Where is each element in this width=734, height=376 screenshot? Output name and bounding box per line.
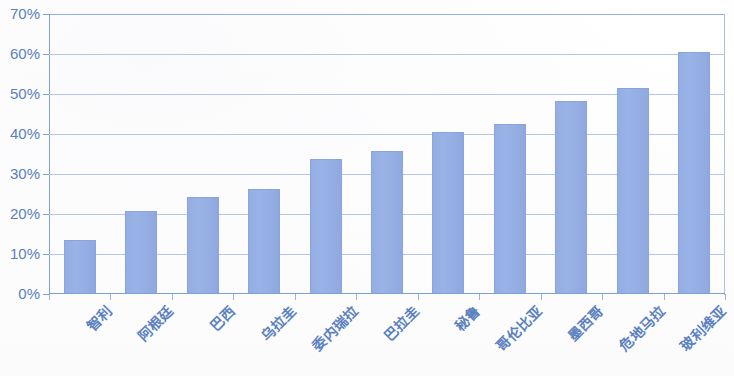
- y-axis-tick-label: 30%: [0, 166, 40, 181]
- bar: [64, 240, 96, 294]
- y-axis-tick-label: 0%: [0, 286, 40, 301]
- y-axis-tick-label: 60%: [0, 46, 40, 61]
- bar: [125, 211, 157, 294]
- bar: [248, 189, 280, 294]
- x-axis-labels: 智利阿根廷巴西乌拉圭委内瑞拉巴拉圭秘鲁哥伦比亚墨西哥危地马拉玻利维亚: [49, 296, 725, 376]
- bar: [310, 159, 342, 294]
- y-axis-tick-label: 10%: [0, 246, 40, 261]
- y-axis-tick-label: 70%: [0, 6, 40, 21]
- y-axis-tick-label: 40%: [0, 126, 40, 141]
- bar: [678, 52, 710, 294]
- bar: [432, 132, 464, 294]
- x-axis-tick: [725, 294, 726, 300]
- bar-chart: 0%10%20%30%40%50%60%70% 智利阿根廷巴西乌拉圭委内瑞拉巴拉…: [0, 0, 734, 376]
- bar-series: [49, 14, 725, 294]
- bar: [371, 151, 403, 294]
- y-axis-tick-label: 50%: [0, 86, 40, 101]
- y-axis-tick-label: 20%: [0, 206, 40, 221]
- bar: [555, 101, 587, 294]
- plot-area: [49, 14, 725, 294]
- bar: [617, 88, 649, 294]
- bar: [187, 197, 219, 294]
- x-axis-baseline: [49, 293, 725, 294]
- bar: [494, 124, 526, 294]
